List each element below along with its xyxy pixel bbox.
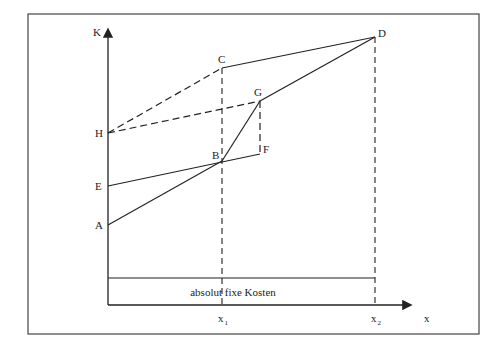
point-label-A: A <box>95 219 103 231</box>
segment-EF <box>108 154 260 186</box>
axes: x1x2 <box>108 30 410 327</box>
segment-AB <box>108 161 222 225</box>
point-label-D: D <box>378 27 386 39</box>
point-label-F: F <box>263 143 269 155</box>
tick-label-x2: x2 <box>371 312 382 327</box>
point-label-H: H <box>95 127 103 139</box>
segment-GD <box>260 37 375 101</box>
tick-label-x1: x1 <box>218 312 229 327</box>
y-axis-label: K <box>93 26 101 38</box>
segment-BG <box>222 101 260 161</box>
point-label-G: G <box>254 86 262 98</box>
x-axis-label: x <box>424 312 430 324</box>
dashed-segment-HC <box>108 68 222 133</box>
cost-lines <box>108 37 375 305</box>
point-label-C: C <box>218 53 225 65</box>
point-label-B: B <box>212 149 219 161</box>
point-labels: AEHBCFGD <box>95 27 386 231</box>
point-label-E: E <box>95 180 102 192</box>
segment-CD <box>222 37 375 68</box>
dashed-segment-HG <box>108 101 260 133</box>
fixed-cost-label: absolut fixe Kosten <box>190 286 276 298</box>
cost-diagram: AEHBCFGD x1x2 absolut fixe Kosten K x <box>0 0 503 358</box>
